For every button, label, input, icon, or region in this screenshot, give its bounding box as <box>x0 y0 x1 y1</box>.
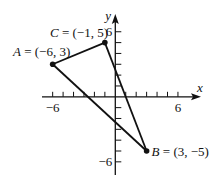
x-tick-label: −6 <box>46 100 60 115</box>
point-B <box>144 148 150 154</box>
point-label-A: A = (−6, 3) <box>12 44 70 59</box>
segment-BA <box>53 64 147 151</box>
x-tick-label: 6 <box>175 100 182 115</box>
labels: xy−666−6A = (−6, 3)B = (3, −5)C = (−1, 5… <box>12 8 209 169</box>
y-axis-label: y <box>103 8 111 23</box>
point-label-B: B = (3, −5) <box>152 144 209 159</box>
y-tick-label: −6 <box>98 154 112 169</box>
point-label-C: C = (−1, 5) <box>50 25 108 40</box>
coordinate-plane: xy−666−6A = (−6, 3)B = (3, −5)C = (−1, 5… <box>0 0 214 184</box>
point-A <box>50 61 56 67</box>
point-C <box>102 40 108 46</box>
x-axis-label: x <box>196 80 203 95</box>
